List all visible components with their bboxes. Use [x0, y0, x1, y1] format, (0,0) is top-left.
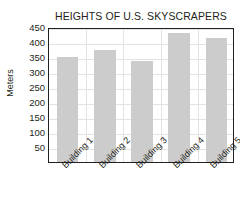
bar [168, 33, 190, 162]
y-axis-tick-label: 350 [19, 53, 45, 63]
bar [94, 50, 116, 163]
chart-title: HEIGHTS OF U.S. SKYSCRAPERS [46, 10, 236, 22]
bar-chart-figure: HEIGHTS OF U.S. SKYSCRAPERS Meters 45040… [0, 0, 240, 222]
y-axis-tick-label: 100 [19, 128, 45, 138]
bar [206, 38, 228, 163]
y-axis-tick-labels: 45040035030025020015010050 [17, 0, 45, 222]
y-axis-tick-label: 200 [19, 98, 45, 108]
x-axis-tick-labels: Building 1Building 2Building 3Building 4… [48, 163, 234, 222]
y-axis-tick-label: 150 [19, 113, 45, 123]
plot-area [48, 28, 234, 163]
y-axis-tick-label: 250 [19, 83, 45, 93]
y-axis-tick-label: 400 [19, 38, 45, 48]
y-axis-tick-label: 50 [19, 143, 45, 153]
y-axis-tick-label: 300 [19, 68, 45, 78]
y-axis-title: Meters [5, 55, 15, 111]
y-axis-tick-label: 450 [19, 23, 45, 33]
